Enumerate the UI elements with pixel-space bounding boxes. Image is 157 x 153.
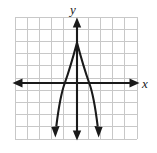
y-axis-label: y <box>68 2 76 17</box>
graph-figure: y x <box>0 0 157 153</box>
x-axis-label: x <box>141 76 148 91</box>
coordinate-plane-svg: y x <box>0 0 157 153</box>
